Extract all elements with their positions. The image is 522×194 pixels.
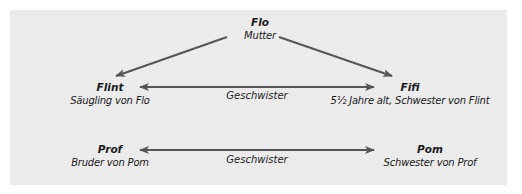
relation-label-flint-fifi: Geschwister <box>207 90 307 101</box>
node-flo-name: Flo <box>210 16 310 29</box>
node-flint-desc: Säugling von Flo <box>40 94 180 107</box>
node-flo: Flo Mutter <box>210 16 310 42</box>
node-prof-desc: Bruder von Pom <box>40 156 180 169</box>
node-flint-name: Flint <box>40 81 180 94</box>
node-pom-desc: Schwester von Prof <box>360 156 500 169</box>
node-fifi-desc: 5½ Jahre alt, Schwester von Flint <box>320 94 500 107</box>
node-flint: Flint Säugling von Flo <box>40 81 180 107</box>
node-pom: Pom Schwester von Prof <box>360 143 500 169</box>
node-pom-name: Pom <box>360 143 500 156</box>
node-fifi-name: Fifi <box>320 81 500 94</box>
node-prof: Prof Bruder von Pom <box>40 143 180 169</box>
relation-label-prof-pom: Geschwister <box>207 154 307 165</box>
arrow-flo-to-fifi <box>279 37 392 76</box>
node-flo-desc: Mutter <box>210 29 310 42</box>
node-prof-name: Prof <box>40 143 180 156</box>
arrow-flo-to-flint <box>116 37 227 76</box>
node-fifi: Fifi 5½ Jahre alt, Schwester von Flint <box>320 81 500 107</box>
